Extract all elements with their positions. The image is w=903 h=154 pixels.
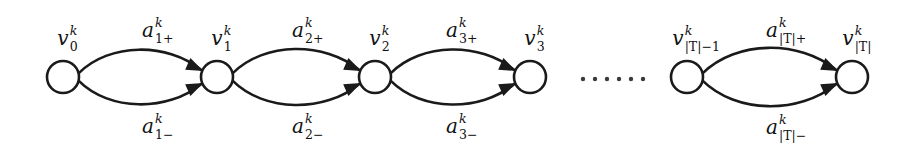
edge-a3p [391,50,514,74]
edge-label-a3p: ak3+ [446,20,458,40]
edge-label-a1m: ak1− [142,116,154,136]
ellipsis-dots [581,77,645,81]
nodes-layer [47,61,868,93]
transit-time-expanded-graph-figure: vk0vk1vk2vk3vk|T|−1vk|T|ak1+ak1−ak2+ak2−… [0,0,903,154]
node-label-base: v [211,26,222,50]
node-label-base: v [672,26,683,50]
edge-a2p [233,49,359,73]
edge-label-base: a [446,18,458,42]
ellipsis-dot [629,77,633,81]
ellipsis-dot [617,77,621,81]
node-label-v2: vk2 [369,28,380,48]
edge-label-subscript: 3+ [459,33,477,46]
node-v0[interactable] [47,61,79,93]
node-label-v3: vk3 [524,28,535,48]
edge-label-superscript: k [305,17,313,30]
node-label-subscript: |T|−1 [685,41,720,54]
node-label-v0: vk0 [57,28,68,48]
node-label-superscript: k [537,25,545,38]
node-label-base: v [57,26,68,50]
node-label-vT-1: vk|T|−1 [672,28,683,48]
edge-label-superscript: k [779,17,787,30]
ellipsis-dot [641,77,645,81]
edge-a2m [233,81,359,105]
edge-label-superscript: k [459,113,467,126]
edge-label-base: a [766,115,778,139]
edges-layer [79,48,839,106]
edge-label-base: a [142,18,154,42]
edge-label-subscript: 3− [459,129,477,142]
ellipsis-dot [605,77,609,81]
edge-label-base: a [446,114,458,138]
edge-label-superscript: k [779,114,787,127]
node-v3[interactable] [514,61,546,93]
node-label-subscript: 2 [382,41,390,54]
edge-label-subscript: 1+ [155,33,173,46]
node-vT[interactable] [836,61,868,93]
edge-label-base: a [292,18,304,42]
edge-label-base: a [766,18,778,42]
edge-a3m [391,81,514,105]
edge-label-a2m: ak2− [292,116,304,136]
edge-label-a3m: ak3− [446,116,458,136]
node-label-superscript: k [70,25,78,38]
node-label-subscript: |T| [855,41,872,54]
ellipsis-dot [581,77,585,81]
edge-label-subscript: |T|+ [779,33,806,46]
edge-a1m [79,81,201,105]
edge-label-superscript: k [155,113,163,126]
node-label-subscript: 3 [537,41,545,54]
node-label-base: v [524,26,535,50]
edge-label-base: a [142,114,154,138]
node-label-base: v [842,26,853,50]
edge-label-superscript: k [459,17,467,30]
edge-label-subscript: 2+ [305,33,323,46]
node-label-superscript: k [382,25,390,38]
node-label-v1: vk1 [211,28,222,48]
edge-aTm [703,81,836,107]
node-label-vT: vk|T| [842,28,853,48]
edge-label-subscript: 2− [305,129,323,142]
node-label-subscript: 1 [224,41,232,54]
edge-aTp [703,48,836,74]
edge-label-superscript: k [305,113,313,126]
edge-label-subscript: 1− [155,129,173,142]
node-v1[interactable] [201,61,233,93]
node-v2[interactable] [359,61,391,93]
ellipsis-dot [593,77,597,81]
node-label-subscript: 0 [70,41,78,54]
edge-label-a2p: ak2+ [292,20,304,40]
node-label-superscript: k [855,25,863,38]
edge-label-superscript: k [155,17,163,30]
edge-label-aTp: ak|T|+ [766,20,778,40]
node-vT-1[interactable] [671,61,703,93]
node-label-base: v [369,26,380,50]
edge-label-subscript: |T|− [779,130,806,143]
node-label-superscript: k [224,25,232,38]
node-label-superscript: k [685,25,693,38]
edge-label-a1p: ak1+ [142,20,154,40]
edge-a1p [79,50,201,74]
edge-label-aTm: ak|T|− [766,117,778,137]
edge-label-base: a [292,114,304,138]
